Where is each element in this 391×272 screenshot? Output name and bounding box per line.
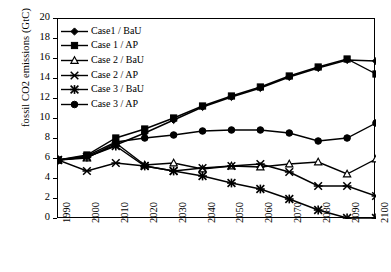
y-tick-label: 8 [28,132,50,142]
y-tick-label: 18 [28,32,50,42]
series-3 [58,139,376,177]
x-cross-icon [60,68,90,81]
y-tick-mark [53,218,57,219]
legend-item-1: Case1 / BaU [60,23,172,38]
series-4 [58,156,376,200]
x-tick-label: 2100 [379,202,390,223]
legend-item-5: Case 3 / BaU [60,81,172,96]
y-tick-label: 20 [28,12,50,22]
diamond-filled-icon [60,24,90,37]
y-tick-label: 16 [28,52,50,62]
legend-label: Case1 / BaU [90,25,142,36]
legend-label: Case 1 / AP [90,39,138,50]
legend-item-2: Case 1 / AP [60,38,172,53]
star-icon [60,82,90,95]
y-tick-label: 0 [28,212,50,222]
legend-label: Case 3 / BaU [90,83,144,94]
legend-item-6: Case 3 / AP [60,96,172,111]
chart-legend: Case1 / BaUCase 1 / APCase 2 / BaUCase 2… [60,21,172,113]
chart-figure: fossil CO2 emissions (GtC) 0246810121416… [0,0,391,272]
y-tick-label: 6 [28,152,50,162]
y-tick-label: 4 [28,172,50,182]
y-tick-label: 12 [28,92,50,102]
legend-label: Case 2 / BaU [90,54,144,65]
triangle-open-icon [60,53,90,66]
legend-label: Case 2 / AP [90,69,138,80]
circle-filled-icon [60,97,90,110]
y-tick-label: 10 [28,112,50,122]
legend-label: Case 3 / AP [90,98,138,109]
legend-item-3: Case 2 / BaU [60,52,172,67]
series-6 [58,120,376,164]
y-tick-label: 2 [28,192,50,202]
legend-item-4: Case 2 / AP [60,67,172,82]
square-filled-icon [60,38,90,51]
series-5 [58,142,376,219]
y-tick-label: 14 [28,72,50,82]
